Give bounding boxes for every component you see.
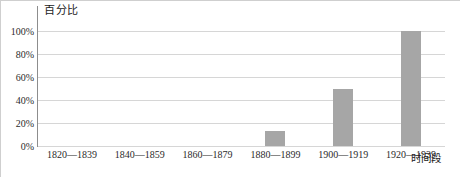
y-axis-tick-label: 80%	[0, 49, 34, 60]
gridline	[38, 31, 445, 32]
plot-area	[38, 31, 445, 146]
x-axis-tick-labels: 1820—18391840—18591860—18791880—18991900…	[38, 149, 445, 169]
gridline	[38, 77, 445, 78]
gridline	[38, 100, 445, 101]
gridline	[38, 54, 445, 55]
y-axis-title: 百分比	[44, 1, 79, 17]
bar	[265, 131, 285, 146]
y-axis-tick-label: 0%	[0, 141, 34, 152]
y-axis-tick-label: 40%	[0, 95, 34, 106]
x-axis-tick-label: 1860—1879	[183, 149, 233, 160]
bar	[333, 89, 353, 147]
x-axis-tick-label: 1820—1839	[47, 149, 97, 160]
y-axis-tick-label: 60%	[0, 72, 34, 83]
x-axis-tick-label: 1880—1899	[250, 149, 300, 160]
y-axis-tick-label: 20%	[0, 118, 34, 129]
y-axis-tick-label: 100%	[0, 26, 34, 37]
gridline	[38, 123, 445, 124]
bar-chart: 百分比 0%20%40%60%80%100% 1820—18391840—185…	[0, 0, 460, 177]
bar	[401, 31, 421, 146]
x-axis-title: 时间段	[411, 150, 441, 165]
x-axis-tick-label: 1900—1919	[318, 149, 368, 160]
gridline	[38, 146, 445, 147]
y-axis-tick-labels: 0%20%40%60%80%100%	[0, 0, 34, 177]
x-axis-tick-label: 1840—1859	[115, 149, 165, 160]
